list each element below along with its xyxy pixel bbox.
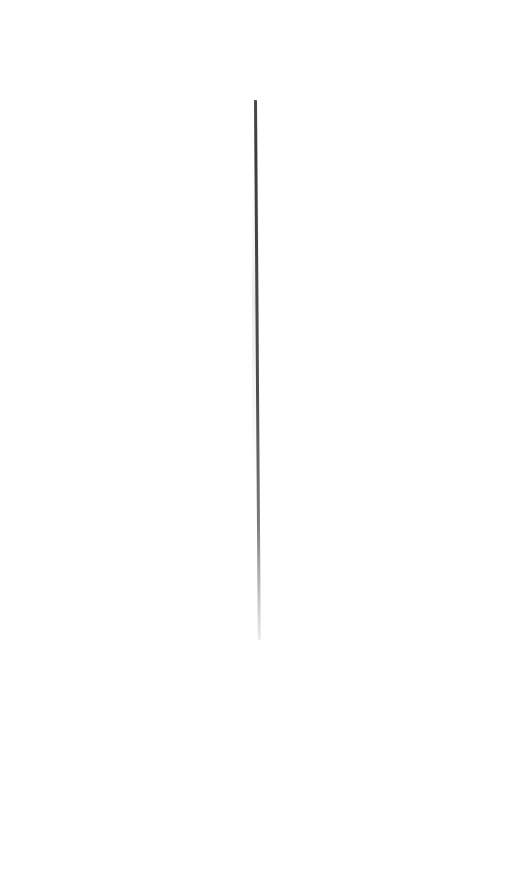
vertical-line <box>254 100 261 640</box>
